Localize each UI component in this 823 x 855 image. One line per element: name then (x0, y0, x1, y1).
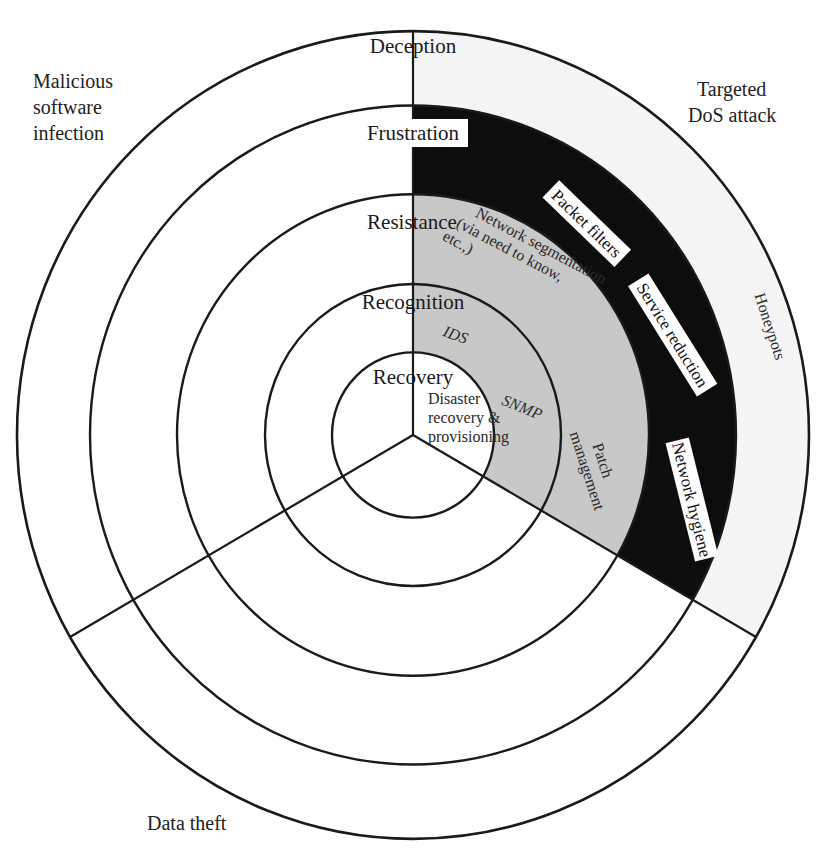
defense-ring-diagram: Malicious software infection Targeted Do… (0, 0, 823, 855)
spoke-lower-left (70, 435, 413, 637)
ring-label-frustration: Frustration (367, 121, 460, 145)
ring-label-deception: Deception (370, 34, 457, 58)
ring-label-resistance: Resistance (367, 210, 457, 234)
ring-label-recognition: Recognition (362, 290, 465, 314)
threat-label-dos: Targeted DoS attack (688, 78, 776, 126)
ring-label-recovery: Recovery (373, 365, 454, 389)
threat-label-data-theft: Data theft (147, 812, 227, 834)
threat-label-malware: Malicious software infection (33, 70, 118, 144)
